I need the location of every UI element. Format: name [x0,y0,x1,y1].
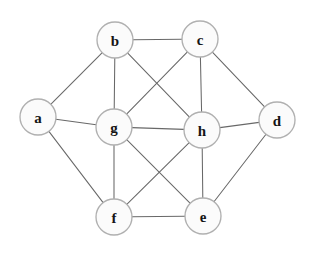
graph-edge-d-e [214,134,266,201]
graph-node-a[interactable]: a [20,99,56,135]
graph-edge-a-f [49,131,103,202]
graph-edge-g-h [132,128,184,130]
graph-node-c[interactable]: c [182,21,218,57]
graph-edge-f-e [132,216,185,217]
graph-node-g[interactable]: g [96,109,132,145]
node-circle-d [259,102,295,138]
graph-edge-a-b [51,53,103,105]
graph-node-d[interactable]: d [259,102,295,138]
graph-edge-b-c [133,39,182,40]
node-circle-c [182,21,218,57]
graph-edge-g-e [127,140,191,204]
node-circle-b [97,22,133,58]
graph-edge-c-d [212,52,264,107]
graph-node-b[interactable]: b [97,22,133,58]
node-circle-g [96,109,132,145]
graph-edge-h-f [127,143,189,205]
graph-node-h[interactable]: h [184,112,220,148]
graph-edge-b-h [128,53,190,117]
graph-edge-b-g [114,58,115,109]
edges-layer [49,39,266,217]
node-circle-h [184,112,220,148]
graph-edge-h-e [202,148,203,198]
graph-node-e[interactable]: e [185,198,221,234]
node-circle-e [185,198,221,234]
graph-node-f[interactable]: f [96,199,132,235]
graph-edge-a-g [56,119,96,124]
node-circle-f [96,199,132,235]
graph-canvas: abcdefgh [0,0,315,253]
graph-edge-c-h [200,57,201,112]
node-circle-a [20,99,56,135]
graph-edge-d-h [220,122,259,127]
graph-diagram: abcdefgh [0,0,315,253]
